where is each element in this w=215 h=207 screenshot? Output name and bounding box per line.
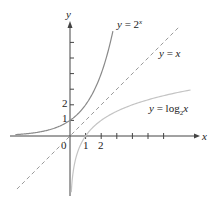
y-tick-label-2: 2 [62,97,68,109]
y-axis-label: y [65,8,71,20]
x-tick-label-1: 1 [83,139,89,151]
y-axis-arrow-icon [68,21,73,28]
exp-curve-label: y = 2x [116,18,143,30]
x-axis-label: x [201,130,207,142]
origin-label: 0 [61,139,67,151]
x-axis-arrow-icon [194,134,200,139]
identity-line-label: y = x [158,47,181,59]
log-curve-label: y = log2x [148,102,188,117]
chart: x y 0 1 2 1 2 y = 2x y = x y = log2x [0,0,215,207]
x-tick-label-2: 2 [98,139,104,151]
